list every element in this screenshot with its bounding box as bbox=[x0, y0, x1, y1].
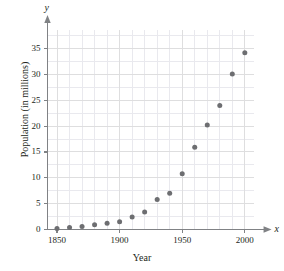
scatter-plot-figure: 05101520253035 1850190019502000 y x Popu… bbox=[0, 0, 284, 271]
data-point bbox=[167, 191, 172, 196]
x-tick-label: 1950 bbox=[162, 236, 202, 245]
x-tick-label: 2000 bbox=[225, 236, 265, 245]
x-axis-arrowhead bbox=[264, 226, 272, 232]
data-point bbox=[155, 197, 160, 202]
data-point bbox=[205, 123, 210, 128]
data-point bbox=[230, 71, 235, 76]
data-point bbox=[242, 50, 247, 55]
y-axis-arrowhead bbox=[44, 15, 50, 23]
data-point bbox=[55, 226, 60, 231]
x-axis-variable-label: x bbox=[275, 224, 279, 234]
data-point bbox=[130, 215, 135, 220]
data-point bbox=[142, 209, 147, 214]
data-point bbox=[92, 222, 97, 227]
x-tick-label: 1850 bbox=[37, 236, 77, 245]
grid-minor-vertical-lines bbox=[57, 30, 245, 230]
grid-major-horizontal-lines bbox=[48, 49, 254, 204]
data-point bbox=[105, 221, 110, 226]
grid-major-vertical-lines bbox=[57, 30, 245, 230]
y-tick-label: 0 bbox=[10, 225, 41, 234]
data-point bbox=[80, 224, 85, 229]
x-tick-label: 1900 bbox=[100, 236, 140, 245]
y-tick-label: 5 bbox=[10, 199, 41, 208]
y-axis-variable-label: y bbox=[45, 3, 49, 13]
data-point bbox=[180, 171, 185, 176]
data-point bbox=[67, 225, 72, 230]
data-point bbox=[192, 145, 197, 150]
plot-canvas bbox=[0, 0, 284, 271]
data-point bbox=[217, 103, 222, 108]
data-point bbox=[117, 219, 122, 224]
y-axis-title: Population (in millions) bbox=[19, 30, 30, 190]
x-axis-title: Year bbox=[0, 252, 284, 263]
